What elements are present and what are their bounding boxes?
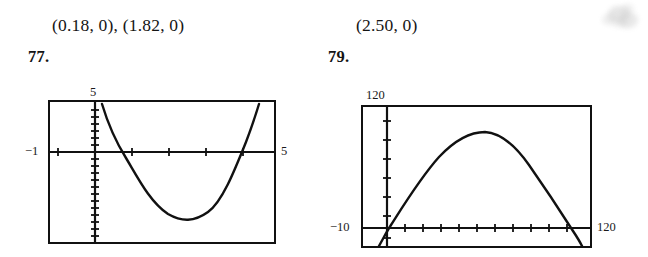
x-max-label-79: 120 xyxy=(597,221,616,234)
textbook-page: (0.18, 0), (1.82, 0) 77. 5 −1 5 xyxy=(0,0,648,257)
exercise-number-79: 79. xyxy=(328,47,349,67)
x-min-label-79: −10 xyxy=(330,221,350,234)
exercise-number-77: 77. xyxy=(28,47,49,67)
y-max-label-79: 120 xyxy=(366,89,385,102)
parabola-curve-77 xyxy=(102,104,259,220)
answer-text-77: (0.18, 0), (1.82, 0) xyxy=(52,15,184,36)
plot-77 xyxy=(50,102,274,242)
y-max-label-77: 5 xyxy=(90,86,96,99)
x-max-label-77: 5 xyxy=(281,145,287,158)
plot-79 xyxy=(363,107,590,246)
scan-smudge-artifact xyxy=(598,2,644,34)
answer-text-79: (2.50, 0) xyxy=(356,15,418,36)
x-min-label-77: −1 xyxy=(25,145,38,158)
